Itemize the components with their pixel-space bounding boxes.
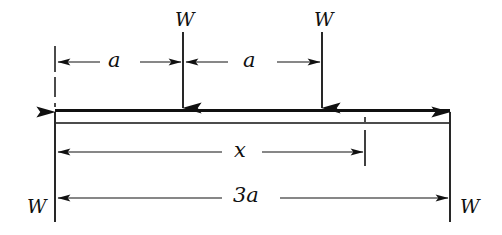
reaction-label-left: W bbox=[27, 197, 47, 216]
dimension-label-a-left: a bbox=[108, 50, 121, 71]
load-label-right: W bbox=[314, 10, 334, 29]
dimension-label-a-right: a bbox=[243, 50, 256, 71]
dimension-label-x: x bbox=[234, 140, 246, 161]
beam-diagram: W W a a x 3a W W bbox=[0, 0, 502, 235]
dimension-label-3a: 3a bbox=[233, 185, 259, 206]
load-label-left: W bbox=[175, 10, 195, 29]
beam-outline bbox=[55, 111, 450, 124]
reaction-label-right: W bbox=[460, 197, 480, 216]
